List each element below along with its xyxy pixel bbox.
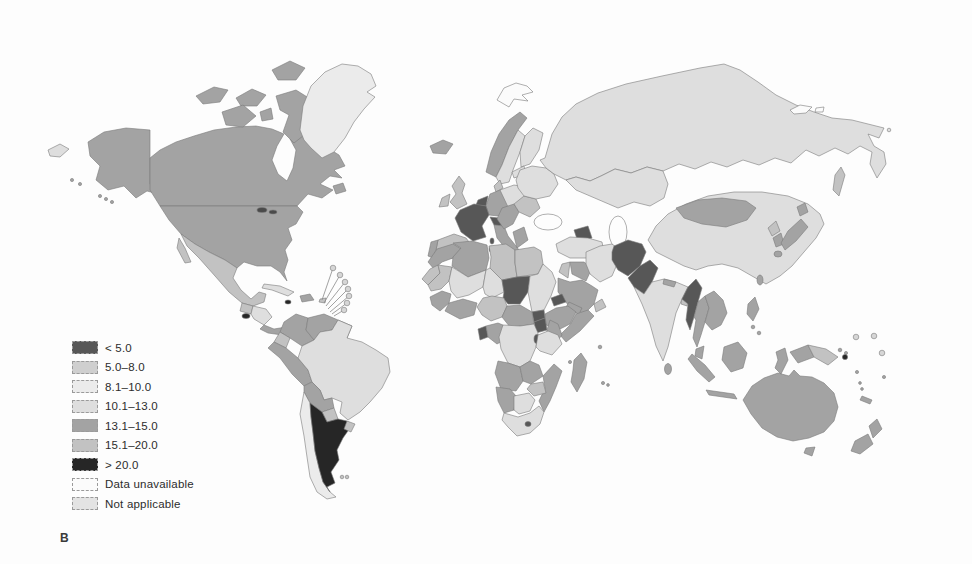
region-solomon-vanuatu (859, 382, 862, 385)
choropleth-map-figure: < 5.0 5.0–8.0 8.1–10.0 10.1–13.0 13.1–15… (0, 0, 972, 564)
region-alaska (88, 128, 158, 198)
region-canada (333, 183, 346, 194)
caribbean-island-circle (341, 307, 347, 313)
region-solomon-vanuatu (855, 370, 858, 373)
region-australia (743, 370, 838, 441)
region-hawaii (98, 194, 101, 197)
legend-label: 13.1–15.0 (105, 420, 158, 432)
region-chad (502, 276, 530, 304)
region-new-siberian (815, 107, 824, 112)
legend-row: 8.1–10.0 (72, 377, 194, 397)
region-ireland (439, 194, 450, 207)
region-arctic-islands (196, 87, 228, 104)
region-honduras-nicaragua (251, 306, 272, 325)
caribbean-island-circle (337, 272, 343, 278)
pacific-dark-island-circle (842, 354, 847, 359)
pacific-island-circle (853, 334, 859, 340)
region-iceland (430, 140, 453, 154)
region-solomon-vanuatu (861, 388, 864, 391)
region-philippines (757, 331, 761, 335)
region-uk (450, 176, 467, 209)
region-corsica-sardinia (490, 238, 494, 244)
legend-label: 8.1–10.0 (105, 381, 151, 393)
legend-label: Not applicable (105, 498, 181, 510)
pacific-island-circle (879, 350, 885, 356)
region-arctic-islands (236, 89, 266, 106)
region-indian-ocean-islands (601, 381, 604, 384)
region-falklands (345, 475, 349, 479)
region-cuba (262, 284, 294, 296)
legend-swatch (72, 439, 98, 452)
region-svalbard (497, 83, 533, 107)
region-russia (887, 128, 891, 132)
region-new-zealand (869, 419, 882, 438)
great-lakes (257, 208, 267, 213)
legend-label: 15.1–20.0 (105, 439, 158, 451)
legend-row: Not applicable (72, 494, 194, 514)
legend-label: Data unavailable (105, 478, 194, 490)
region-indian-ocean-islands (607, 384, 610, 387)
region-chukotka (48, 144, 69, 157)
region-new-zealand (851, 434, 873, 454)
legend-swatch (72, 419, 98, 432)
region-finland (520, 128, 543, 167)
region-taiwan (757, 275, 763, 285)
region-hawaii (110, 200, 113, 203)
region-hispaniola (300, 294, 314, 302)
region-botswana (514, 393, 535, 414)
legend-row: Data unavailable (72, 475, 194, 495)
legend-swatch (72, 478, 98, 491)
caribbean-island-circle (346, 293, 352, 299)
region-greenland (300, 64, 376, 158)
region-levant (559, 262, 570, 278)
legend-label: < 5.0 (105, 342, 132, 354)
region-sakhalin (833, 167, 845, 196)
region-japan (774, 251, 782, 257)
region-russia (540, 64, 886, 181)
region-borneo (722, 342, 747, 372)
legend-row: 13.1–15.0 (72, 416, 194, 436)
region-new-caledonia (860, 396, 872, 404)
region-arctic-islands (222, 105, 256, 127)
legend-label: 10.1–13.0 (105, 400, 158, 412)
panel-label: B (60, 531, 69, 545)
pacific-island-circle (871, 333, 877, 339)
region-arctic-islands (272, 61, 305, 80)
caribbean-island-circle (344, 300, 350, 306)
legend-row: 10.1–13.0 (72, 397, 194, 417)
region-alaska (70, 178, 73, 181)
caribbean-island-circle (342, 279, 348, 285)
caribbean-island-circle (345, 286, 351, 292)
legend-label: > 20.0 (105, 459, 139, 471)
region-lesotho (525, 422, 531, 427)
caribbean-leader-line (322, 268, 333, 300)
region-indian-ocean-islands (598, 345, 602, 349)
legend-swatch (72, 380, 98, 393)
region-indochina (705, 291, 727, 330)
great-lakes (269, 210, 277, 214)
region-cameroon-car (502, 305, 534, 327)
region-hawaii (104, 197, 107, 200)
legend-swatch (72, 400, 98, 413)
caribbean-island-circle (330, 265, 336, 271)
region-ivory-ghana (445, 299, 477, 319)
region-malaysia (695, 346, 704, 359)
region-java (706, 390, 737, 399)
region-el-salvador (242, 314, 250, 319)
legend-row: 15.1–20.0 (72, 436, 194, 456)
legend-swatch (72, 361, 98, 374)
region-philippines (747, 297, 759, 321)
region-solomon-vanuatu (838, 348, 842, 352)
legend-row: > 20.0 (72, 455, 194, 475)
region-drc (499, 324, 538, 367)
region-arctic-islands (260, 108, 273, 121)
legend-row: 5.0–8.0 (72, 358, 194, 378)
region-oman (594, 299, 606, 312)
region-tasmania (804, 447, 815, 456)
region-france (455, 204, 489, 241)
region-jamaica (285, 300, 291, 304)
region-solomon-vanuatu (882, 375, 885, 378)
legend-swatch (72, 458, 98, 471)
black-sea (534, 214, 562, 230)
region-indian-ocean-islands (568, 360, 571, 363)
